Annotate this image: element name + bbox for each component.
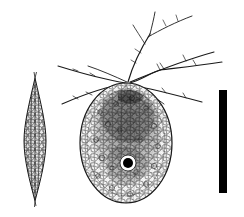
broad-view-figure: [58, 12, 222, 203]
aperture-group: [120, 155, 136, 171]
spine-central-barb-b: [163, 15, 178, 26]
spine-central-branch-left: [133, 25, 145, 44]
aperture-core: [123, 158, 133, 168]
lateral-apical-spine: [34, 72, 37, 78]
illustration-svg: [0, 0, 244, 217]
scale-bar: [219, 90, 227, 193]
spine-central-branch-right: [148, 16, 192, 37]
figure-container: [0, 0, 244, 217]
spine-left-mid-barb: [73, 69, 95, 76]
lateral-body-shading: [24, 80, 46, 201]
lateral-antapical-point: [35, 201, 37, 207]
lateral-view-figure: [24, 72, 46, 207]
spine-right-mid: [130, 62, 222, 83]
spine-central-branch-upper: [150, 12, 155, 34]
